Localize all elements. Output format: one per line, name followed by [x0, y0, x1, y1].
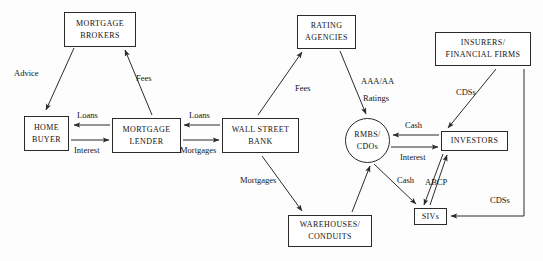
node-label-line: CONDUITS	[308, 231, 352, 243]
node-label-line: CDOs	[357, 141, 379, 153]
node-label-line: SIVs	[422, 211, 440, 223]
node-label-line: INVESTORS	[451, 135, 498, 147]
edge-label-cdss-top: CDSs	[456, 87, 476, 97]
node-mortgage-brokers[interactable]: MORTGAGEBROKERS	[64, 12, 136, 47]
node-sivs[interactable]: SIVs	[414, 208, 447, 225]
node-label-line: LENDER	[130, 136, 164, 148]
node-warehouses-conduits[interactable]: WAREHOUSES/CONDUITS	[288, 215, 372, 247]
node-label-line: WAREHOUSES/	[300, 219, 360, 231]
edge-label-interest-rmbs: Interest	[400, 152, 426, 162]
edge-label-loans-to-lender: Loans	[189, 110, 210, 120]
node-insurers-financial-firms[interactable]: INSURERS/FINANCIAL FIRMS	[435, 32, 531, 66]
node-label-line: RATING	[311, 20, 343, 32]
node-label-line: BANK	[248, 136, 272, 148]
edge-label-cdss-sivs: CDSs	[490, 195, 510, 205]
edge-label-fees-rating: Fees	[295, 83, 311, 93]
node-label-line: FINANCIAL FIRMS	[446, 49, 521, 61]
node-label-line: BUYER	[32, 134, 61, 146]
node-rating-agencies[interactable]: RATINGAGENCIES	[297, 15, 356, 49]
node-mortgage-lender[interactable]: MORTGAGELENDER	[112, 118, 181, 153]
node-investors[interactable]: INVESTORS	[441, 131, 508, 151]
edge-label-mortgages-wh: Mortgages	[240, 175, 276, 185]
node-label-line: MORTGAGE	[122, 124, 170, 136]
edge-label-cash-sivs: Cash	[397, 175, 414, 185]
node-rmbs-cdos[interactable]: RMBS/CDOs	[345, 118, 390, 163]
edge-label-cash-investors: Cash	[405, 120, 422, 130]
edge-label-ratings: Ratings	[363, 93, 389, 103]
edge-label-fees-brokers: Fees	[136, 73, 152, 83]
node-label-line: WALL STREET	[232, 124, 290, 136]
node-label-line: MORTGAGE	[76, 18, 124, 30]
flow-diagram: MORTGAGEBROKERS HOMEBUYER MORTGAGELENDER…	[0, 0, 543, 261]
edge-label-abcp: ABCP	[425, 177, 447, 187]
edge-label-advice: Advice	[14, 68, 39, 78]
edge-label-interest: Interest	[74, 145, 100, 155]
node-label-line: INSURERS/	[461, 37, 506, 49]
node-label-line: AGENCIES	[305, 32, 348, 44]
edge-warehouses-to-rmbs	[352, 166, 370, 212]
edge-label-loans-to-buyer: Loans	[77, 110, 98, 120]
edge-label-mortgages-lender: Mortgages	[180, 145, 216, 155]
node-home-buyer[interactable]: HOMEBUYER	[24, 116, 69, 151]
edge-brokers-to-homebuyer	[46, 48, 74, 110]
node-wall-street-bank[interactable]: WALL STREETBANK	[222, 118, 299, 153]
node-label-line: HOME	[34, 122, 59, 134]
edge-bank-to-rmbs	[270, 104, 283, 118]
node-label-line: BROKERS	[80, 30, 120, 42]
edge-label-aaa-aa: AAA/AA	[361, 76, 394, 86]
edge-insurers-to-rmbs-cds	[448, 69, 496, 128]
node-label-line: RMBS/	[354, 129, 380, 141]
